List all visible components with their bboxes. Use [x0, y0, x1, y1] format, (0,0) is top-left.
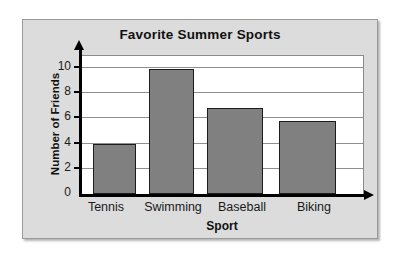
x-axis-label-swimming: Swimming: [134, 200, 212, 214]
bar-baseball[interactable]: [207, 108, 263, 194]
gridline-8: [81, 92, 363, 93]
y-tick-4: [74, 142, 80, 144]
x-axis-label-biking: Biking: [277, 200, 351, 214]
bar-swimming[interactable]: [149, 69, 194, 194]
bar-biking[interactable]: [279, 121, 336, 194]
y-tick-8: [74, 91, 80, 93]
gridline-10: [81, 67, 363, 68]
y-tick-2: [74, 167, 80, 169]
chart-panel: Favorite Summer Sports 10 8 6 4 2 0 Numb…: [22, 19, 378, 239]
x-axis-title: Sport: [80, 219, 364, 233]
plot-area: [80, 55, 364, 195]
x-axis-arrow-icon: [364, 190, 374, 200]
chart-screenshot: Favorite Summer Sports 10 8 6 4 2 0 Numb…: [0, 0, 396, 261]
x-axis-label-baseball: Baseball: [204, 200, 280, 214]
y-axis-title: Number of Friends: [49, 54, 61, 194]
x-axis-line: [79, 194, 365, 197]
y-tick-10: [74, 66, 80, 68]
x-axis-label-tennis: Tennis: [70, 200, 142, 214]
bar-tennis[interactable]: [93, 144, 136, 194]
y-axis-arrow-icon: [74, 40, 84, 50]
y-tick-6: [74, 116, 80, 118]
y-axis-line: [79, 48, 82, 196]
